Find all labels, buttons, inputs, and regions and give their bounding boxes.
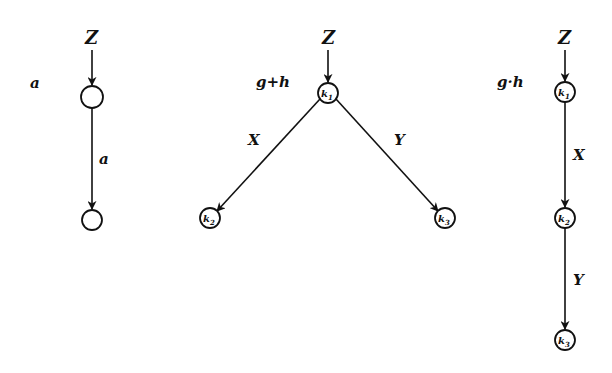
diagram-title-a: a bbox=[30, 74, 40, 92]
diagram-g-dot-h: g·h Z k1 X k2 Y k3 bbox=[497, 27, 586, 350]
state-node-1 bbox=[81, 86, 103, 108]
input-z-label: Z bbox=[84, 27, 99, 48]
edge-label-y: Y bbox=[573, 271, 585, 289]
diagram-title-g-dot-h: g·h bbox=[497, 73, 524, 91]
input-z-label: Z bbox=[557, 27, 572, 48]
input-z-label: Z bbox=[321, 27, 336, 48]
diagram-title-g-plus-h: g+h bbox=[256, 73, 290, 91]
edge-label-a: a bbox=[99, 150, 109, 168]
edge-label-x: X bbox=[247, 131, 261, 149]
edge-label-y: Y bbox=[394, 131, 406, 149]
state-node-2 bbox=[82, 210, 102, 230]
diagram-canvas: a Z a g+h Z k1 X Y k2 k3 g·h Z k1 X k2 bbox=[0, 0, 612, 373]
edge-x bbox=[217, 99, 320, 211]
edge-label-x: X bbox=[572, 146, 586, 164]
edge-y bbox=[336, 99, 438, 211]
diagram-g-plus-h: g+h Z k1 X Y k2 k3 bbox=[200, 27, 455, 228]
diagram-a: a Z a bbox=[30, 27, 109, 230]
